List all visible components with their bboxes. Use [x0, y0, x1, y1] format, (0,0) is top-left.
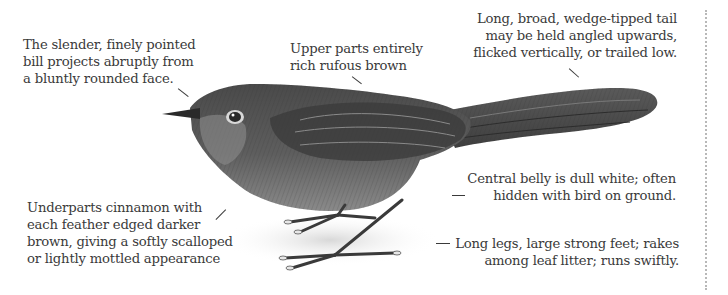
annotation-line: may be held angled upwards,: [473, 27, 677, 44]
annotation-tail: Long, broad, wedge-tipped tail may be he…: [473, 10, 677, 61]
annotation-line: each feather edged darker: [27, 216, 233, 233]
annotation-line: Upper parts entirely: [290, 40, 423, 57]
leader-line-belly: [452, 195, 465, 196]
annotation-line: hidden with bird on ground.: [467, 187, 676, 204]
annotation-legs: Long legs, large strong feet; rakes amon…: [455, 235, 679, 269]
ground-shadow: [220, 214, 440, 266]
bill: [162, 108, 200, 119]
annotation-line: or lightly mottled appearance: [27, 250, 233, 267]
leader-line-legs: [436, 243, 450, 244]
annotation-line: a bluntly rounded face.: [23, 70, 196, 87]
annotation-line: Long legs, large strong feet; rakes: [455, 235, 679, 252]
annotation-belly: Central belly is dull white; often hidde…: [467, 170, 676, 204]
annotation-bill: The slender, finely pointed bill project…: [23, 36, 196, 87]
annotation-line: among leaf litter; runs swiftly.: [455, 252, 679, 269]
annotation-line: rich rufous brown: [290, 57, 423, 74]
annotation-underparts: Underparts cinnamon with each feather ed…: [27, 199, 233, 267]
annotation-line: Central belly is dull white; often: [467, 170, 676, 187]
tail: [440, 88, 657, 148]
dotted-divider: [705, 10, 707, 290]
annotation-upperparts: Upper parts entirely rich rufous brown: [290, 40, 423, 74]
annotation-line: Underparts cinnamon with: [27, 199, 233, 216]
annotation-line: Long, broad, wedge-tipped tail: [473, 10, 677, 27]
eye: [226, 110, 244, 124]
body: [190, 84, 471, 211]
annotation-line: bill projects abruptly from: [23, 53, 196, 70]
annotation-line: flicked vertically, or trailed low.: [473, 44, 677, 61]
annotation-line: The slender, finely pointed: [23, 36, 196, 53]
annotation-line: brown, giving a softly scalloped: [27, 233, 233, 250]
